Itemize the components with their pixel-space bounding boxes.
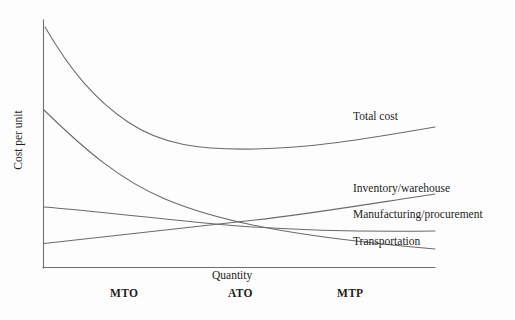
series-line-total-cost	[45, 27, 435, 149]
chart-container: Cost per unit Quantity Total cost Invent…	[0, 0, 515, 320]
series-label-inventory-warehouse: Inventory/warehouse	[353, 182, 450, 195]
x-axis-label: Quantity	[212, 269, 252, 282]
series-label-manufacturing-procurement: Manufacturing/procurement	[353, 208, 483, 221]
x-category-label-mto: MTO	[110, 287, 138, 300]
series-line-transportation	[44, 110, 435, 249]
series-label-total-cost: Total cost	[353, 110, 398, 123]
series-label-transportation: Transportation	[353, 235, 420, 248]
chart-plot-area	[0, 0, 515, 320]
x-category-label-ato: ATO	[228, 287, 253, 300]
y-axis-label: Cost per unit	[12, 110, 25, 169]
x-category-label-mtp: MTP	[337, 287, 363, 300]
